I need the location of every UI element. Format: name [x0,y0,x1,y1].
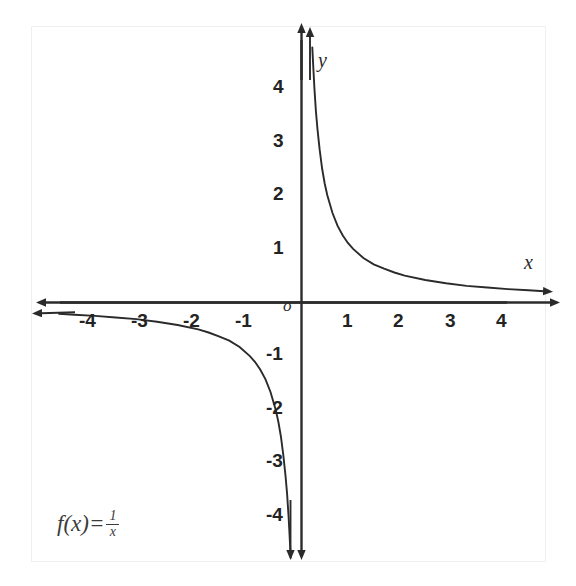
y-tick-label-3: 1 [273,238,284,257]
y-tick-label-6: -3 [266,451,283,470]
formula-equals: = [89,512,105,535]
curve-branch-negative-arrow-left [41,312,75,313]
x-tick-label-7: 4 [496,311,507,330]
x-axis-label: x [524,252,533,272]
y-tick-label-5: -2 [266,398,283,417]
hyperbola-plot [0,0,576,586]
function-formula: f(x) = 1 x [57,508,119,538]
x-tick-label-6: 3 [445,311,456,330]
y-tick-label-2: 2 [273,184,284,203]
y-tick-label-4: -1 [266,344,283,363]
x-tick-label-1: -3 [131,311,148,330]
curve-branch-negative [58,146,284,313]
y-tick-label-7: -4 [266,505,283,524]
curve-branch-positive [312,47,544,291]
y-tick-label-0: 4 [273,77,284,96]
y-axis-label: y [318,50,327,70]
x-tick-label-5: 2 [393,311,404,330]
formula-fx: f(x) [57,512,89,535]
formula-fraction: 1 x [106,509,119,539]
formula-denominator: x [107,525,119,540]
figure-canvas: y x o -4-3-2-11234 4321-1-2-3-4 f(x) = 1… [0,0,576,586]
x-tick-label-0: -4 [79,311,96,330]
x-tick-label-4: 1 [342,311,353,330]
x-tick-label-2: -2 [183,311,200,330]
x-tick-label-3: -1 [235,311,252,330]
origin-label: o [283,297,292,314]
y-tick-label-1: 3 [273,131,284,150]
formula-numerator: 1 [106,509,119,524]
